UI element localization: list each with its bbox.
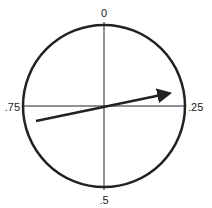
label-left: .75	[5, 101, 20, 113]
label-top: 0	[101, 7, 107, 19]
label-bottom: .5	[99, 194, 108, 206]
phase-arrow	[36, 94, 166, 121]
phase-diagram: 0 .25 .5 .75	[0, 0, 212, 208]
label-right: .25	[188, 101, 203, 113]
